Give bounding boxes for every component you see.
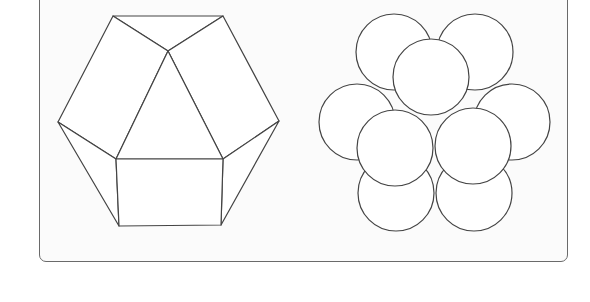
diagram-canvas	[0, 0, 590, 302]
polyhedron	[58, 16, 279, 226]
sphere	[435, 108, 511, 184]
sphere	[393, 39, 469, 115]
sphere	[357, 110, 433, 186]
sphere-cluster	[319, 14, 550, 231]
front-square-face	[116, 159, 223, 226]
